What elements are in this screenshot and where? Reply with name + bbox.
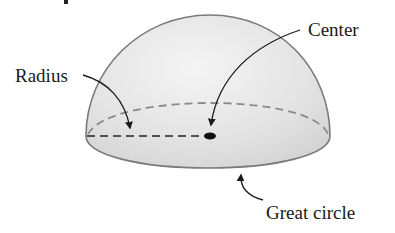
great-circle-label: Great circle xyxy=(266,203,355,222)
hemisphere-diagram: Radius Center Great circle xyxy=(0,0,395,233)
hemisphere-dome xyxy=(86,15,330,168)
radius-label: Radius xyxy=(15,66,68,85)
cropped-heading-fragment xyxy=(64,0,68,4)
center-label: Center xyxy=(308,20,359,39)
center-point xyxy=(204,133,216,140)
great-circle-pointer-arrow xyxy=(241,175,263,200)
